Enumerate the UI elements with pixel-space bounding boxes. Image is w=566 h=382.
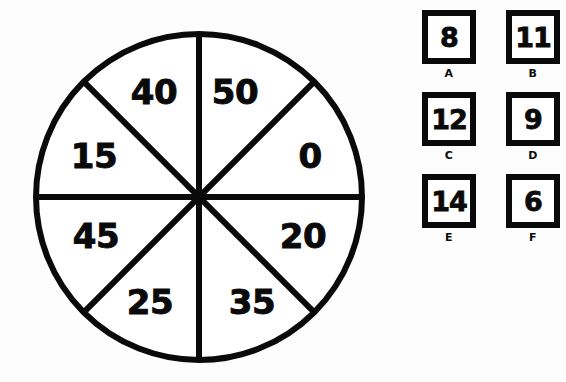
answer-options: 8A11B12C9D14E6F [396,0,566,382]
option-box-a[interactable]: 8 [422,10,476,64]
option-e[interactable]: 14E [410,174,488,244]
spinner-sector-label-25: 25 [127,285,173,319]
spinner-sector-label-35: 35 [229,285,275,319]
option-value-a: 8 [440,24,458,51]
option-value-d: 9 [524,106,542,133]
option-letter-b: B [494,68,566,80]
option-value-e: 14 [431,188,467,215]
option-f[interactable]: 6F [494,174,566,244]
worksheet-page: 500203525451540 8A11B12C9D14E6F [0,0,566,382]
spinner-diagram: 500203525451540 [0,0,390,382]
spinner-sector-label-40: 40 [131,75,177,109]
spinner-sector-label-20: 20 [280,219,326,253]
spinner-sector-label-50: 50 [212,75,258,109]
option-a[interactable]: 8A [410,10,488,80]
spinner-sector-label-45: 45 [73,219,119,253]
option-value-c: 12 [431,106,467,133]
option-box-f[interactable]: 6 [506,174,560,228]
option-letter-f: F [494,232,566,244]
option-letter-a: A [410,68,488,80]
option-letter-e: E [410,232,488,244]
spinner-wheel-graphic [0,0,390,382]
option-box-c[interactable]: 12 [422,92,476,146]
option-box-d[interactable]: 9 [506,92,560,146]
spinner-divider-lines [36,34,362,360]
spinner-sector-label-15: 15 [71,139,117,173]
option-b[interactable]: 11B [494,10,566,80]
option-letter-d: D [494,150,566,162]
option-c[interactable]: 12C [410,92,488,162]
option-value-f: 6 [524,188,542,215]
option-box-b[interactable]: 11 [506,10,560,64]
option-letter-c: C [410,150,488,162]
spinner-sector-label-0: 0 [298,139,321,173]
option-d[interactable]: 9D [494,92,566,162]
option-box-e[interactable]: 14 [422,174,476,228]
option-value-b: 11 [515,24,551,51]
